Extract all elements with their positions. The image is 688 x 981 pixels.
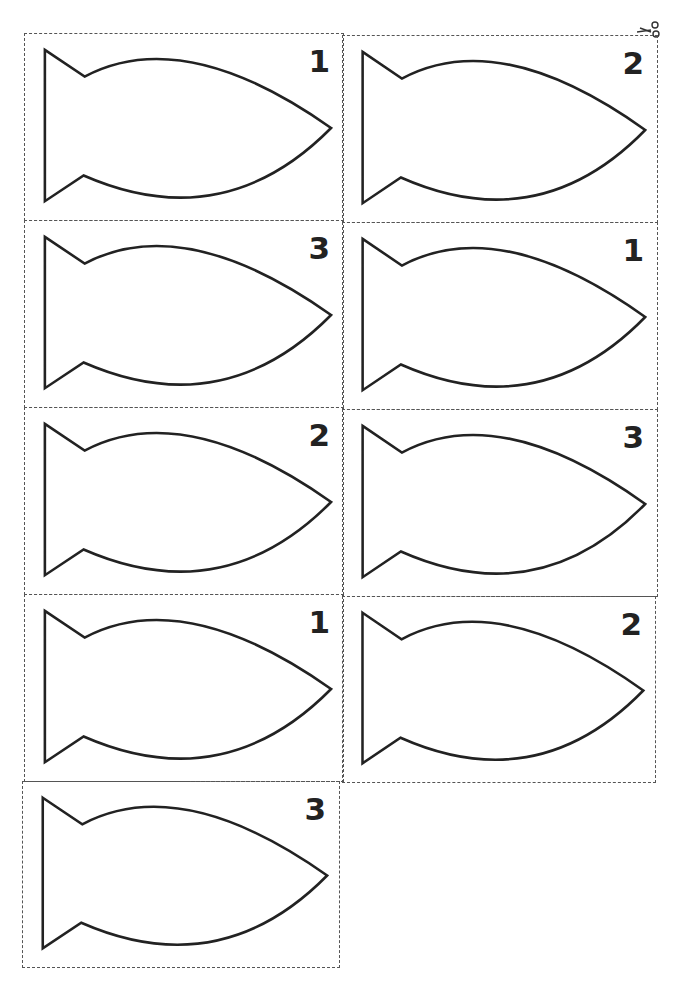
card-number: 1 [308, 46, 330, 77]
card-number: 3 [308, 233, 330, 264]
card-number: 1 [308, 607, 330, 638]
fish-outline-icon [343, 597, 655, 782]
fish-cards-page: 1 2 3 1 2 3 1 [0, 0, 688, 981]
fish-card-5: 2 [24, 407, 344, 595]
fish-outline-icon [25, 408, 343, 594]
fish-outline-icon [23, 782, 339, 967]
card-number: 2 [622, 48, 644, 79]
fish-outline-icon [343, 410, 657, 596]
fish-card-7: 1 [24, 594, 344, 782]
fish-card-3: 3 [24, 220, 344, 408]
fish-outline-icon [25, 221, 343, 407]
fish-card-6: 3 [342, 409, 658, 597]
fish-card-4: 1 [342, 222, 658, 410]
card-number: 2 [308, 420, 330, 451]
fish-outline-icon [343, 223, 657, 409]
fish-card-2: 2 [342, 35, 658, 223]
fish-card-8: 2 [342, 596, 656, 783]
card-number: 1 [622, 235, 644, 266]
fish-card-1: 1 [24, 33, 344, 221]
card-number: 2 [620, 609, 642, 640]
fish-outline-icon [343, 36, 657, 222]
fish-outline-icon [25, 34, 343, 220]
fish-card-9: 3 [22, 781, 340, 968]
card-number: 3 [304, 794, 326, 825]
card-number: 3 [622, 422, 644, 453]
fish-outline-icon [25, 595, 343, 781]
